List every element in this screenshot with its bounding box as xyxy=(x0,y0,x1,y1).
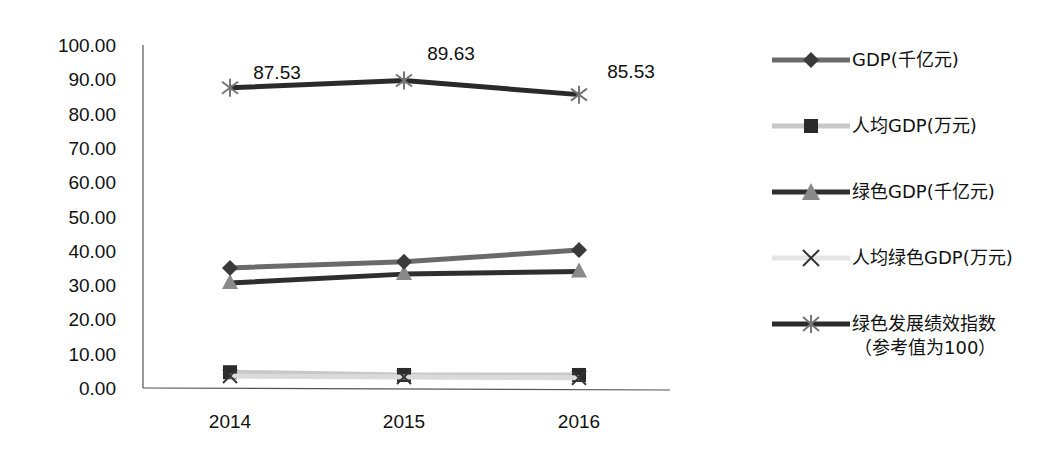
y-axis-ticks: 0.0010.0020.0030.0040.0050.0060.0070.008… xyxy=(58,35,116,399)
x-tick-label: 2015 xyxy=(383,411,425,432)
data-labels: 87.5389.6385.53 xyxy=(253,43,655,83)
legend-label: 人均绿色GDP(万元) xyxy=(852,246,1013,270)
y-tick-label: 10.00 xyxy=(68,344,116,365)
data-label: 87.53 xyxy=(253,62,301,83)
triangle-marker-icon xyxy=(770,180,852,204)
legend-sublabel: （参考值为100） xyxy=(852,336,996,360)
diamond-marker-icon xyxy=(571,242,587,258)
legend-item-green-performance-index: 绿色发展绩效指数 （参考值为100） xyxy=(770,312,1013,378)
y-tick-label: 70.00 xyxy=(68,138,116,159)
square-marker-icon xyxy=(770,114,852,138)
legend-label: GDP(千亿元) xyxy=(852,48,959,72)
legend-item-gdp: GDP(千亿元) xyxy=(770,48,1013,114)
legend-label: 绿色GDP(千亿元) xyxy=(852,180,995,204)
legend: GDP(千亿元) 人均GDP(万元) 绿色GDP(千亿元) 人均绿色GDP(万元… xyxy=(770,48,1013,378)
y-tick-label: 30.00 xyxy=(68,275,116,296)
x-tick-label: 2014 xyxy=(209,411,252,432)
y-tick-label: 100.00 xyxy=(58,35,116,56)
diamond-marker-icon xyxy=(396,254,412,270)
legend-item-green-gdp: 绿色GDP(千亿元) xyxy=(770,180,1013,246)
legend-label: 人均GDP(万元) xyxy=(852,114,977,138)
diamond-marker-icon xyxy=(770,48,852,72)
y-tick-label: 20.00 xyxy=(68,309,116,330)
x-marker-icon xyxy=(770,246,852,270)
y-tick-label: 40.00 xyxy=(68,241,116,262)
x-axis-line xyxy=(143,388,670,390)
y-tick-label: 90.00 xyxy=(68,69,116,90)
series-layer xyxy=(222,72,587,385)
legend-label: 绿色发展绩效指数 xyxy=(852,313,996,334)
legend-item-green-gdp-per-capita: 人均绿色GDP(万元) xyxy=(770,246,1013,312)
data-label: 85.53 xyxy=(607,61,655,82)
x-tick-label: 2016 xyxy=(558,411,600,432)
star-marker-icon xyxy=(770,312,852,336)
x-axis-ticks: 201420152016 xyxy=(209,411,600,432)
diamond-marker-icon xyxy=(222,260,238,276)
y-tick-label: 0.00 xyxy=(79,378,116,399)
y-tick-label: 60.00 xyxy=(68,172,116,193)
y-tick-label: 80.00 xyxy=(68,104,116,125)
legend-item-gdp-per-capita: 人均GDP(万元) xyxy=(770,114,1013,180)
y-tick-label: 50.00 xyxy=(68,207,116,228)
data-label: 89.63 xyxy=(427,43,475,64)
